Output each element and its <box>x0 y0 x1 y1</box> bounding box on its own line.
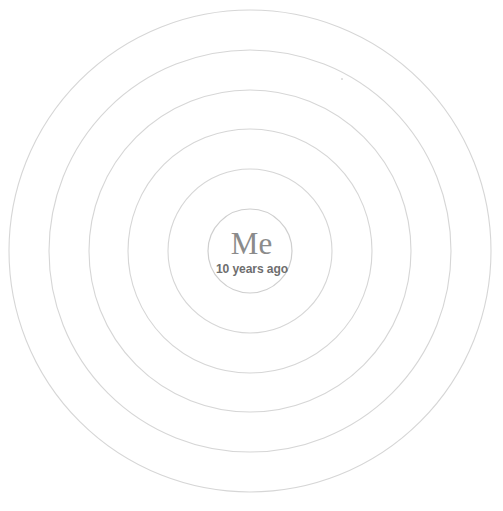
concentric-circles-diagram <box>0 0 503 511</box>
diagram-background <box>0 0 503 511</box>
